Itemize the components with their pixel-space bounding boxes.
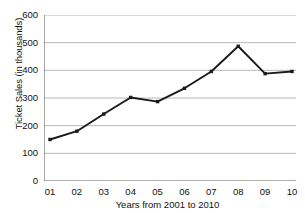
line-chart: Ticket Sales (in thousands) 010020030040…: [0, 0, 305, 213]
y-axis-tick-label: 200: [12, 121, 38, 131]
data-point-marker: [48, 138, 51, 141]
y-axis-tick-label: 100: [12, 148, 38, 158]
data-point-marker: [263, 72, 266, 75]
x-axis-tick-label: 07: [199, 186, 223, 197]
y-axis-tick-label: 500: [12, 38, 38, 48]
x-axis-tick-label: 03: [92, 186, 116, 197]
y-axis-tick-label: 600: [12, 10, 38, 20]
y-axis-tick-label: 300: [12, 93, 38, 103]
x-axis-tick-label: 09: [253, 186, 277, 197]
data-point-marker: [183, 87, 186, 90]
x-axis-title: Years from 2001 to 2010: [0, 199, 305, 210]
y-axis-tick-label: 400: [12, 65, 38, 75]
x-axis-tick-label: 04: [119, 186, 143, 197]
data-point-marker: [290, 70, 293, 73]
x-axis-tick-labels: 01020304050607080910: [44, 186, 296, 200]
data-point-marker: [237, 45, 240, 48]
plot-svg: [44, 15, 296, 181]
x-axis-tick-label: 06: [172, 186, 196, 197]
plot-area: [44, 15, 296, 181]
data-point-marker: [156, 100, 159, 103]
data-point-marker: [102, 112, 105, 115]
data-point-marker: [129, 96, 132, 99]
y-axis-tick-labels: 0100200300400500600: [8, 0, 38, 213]
data-point-marker: [210, 70, 213, 73]
data-point-marker: [75, 130, 78, 133]
x-axis-tick-label: 08: [226, 186, 250, 197]
x-axis-tick-label: 01: [38, 186, 62, 197]
y-axis-tick-label: 0: [12, 176, 38, 186]
x-axis-tick-label: 10: [280, 186, 304, 197]
gridlines: [44, 15, 296, 181]
x-axis-tick-label: 02: [65, 186, 89, 197]
x-axis-tick-label: 05: [146, 186, 170, 197]
